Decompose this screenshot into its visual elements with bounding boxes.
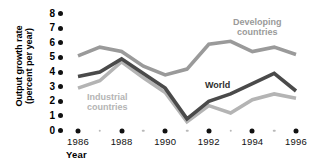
x-axis-dot-1992 [206,128,211,133]
x-axis-dot-1994 [250,128,255,133]
x-axis-label-1990: 1990 [154,136,176,147]
x-axis-dot-1993 [229,129,232,132]
series-label-developing-line1: Developing [233,17,282,27]
x-axis-dot-1986 [76,128,81,133]
x-axis-label-1988: 1988 [111,136,133,147]
series-label-industrial-line2: countries [87,102,128,112]
x-axis-dot-1989 [142,129,145,132]
series-label-developing-line2: countries [233,27,282,37]
series-label-world: World [205,80,230,90]
chart-container: Output growth rate (percent per year) 01… [0,0,323,166]
x-axis-title: Year [66,149,87,160]
series-label-industrial-countries: Industrial countries [87,92,128,113]
series-label-developing-countries: Developing countries [233,17,282,38]
x-axis-dot-1988 [119,128,124,133]
x-axis-dot-1991 [186,129,189,132]
x-axis-dot-1996 [294,128,299,133]
x-axis-dot-1990 [163,128,168,133]
x-axis-label-1992: 1992 [198,136,220,147]
series-label-industrial-line1: Industrial [87,92,128,102]
x-axis-label-1996: 1996 [285,136,307,147]
x-axis-dot-1987 [99,129,102,132]
x-axis-dot-1995 [273,129,276,132]
x-axis-label-1986: 1986 [67,136,89,147]
x-axis-label-1994: 1994 [241,136,263,147]
